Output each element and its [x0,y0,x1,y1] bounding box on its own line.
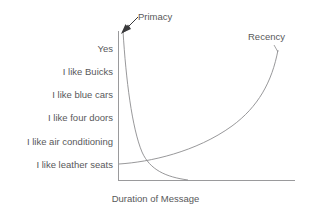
x-axis-title: Duration of Message [0,193,311,204]
y-tick-label-blue-cars: I like blue cars [52,89,113,100]
recency-leader-line [274,45,278,52]
primacy-arrow [121,17,138,34]
y-tick-label-four-doors: I like four doors [48,112,113,123]
recency-annotation-label: Recency [248,31,285,42]
y-tick-label-air-conditioning: I like air conditioning [27,136,113,147]
y-tick-label-yes: Yes [98,43,114,54]
primacy-annotation-label: Primacy [138,11,172,22]
y-tick-label-buicks: I like Buicks [63,66,113,77]
primacy-curve [123,31,188,180]
recency-curve [119,50,278,164]
primacy-recency-chart: Yes I like Buicks I like blue cars I lik… [0,0,311,216]
y-tick-label-leather-seats: I like leather seats [36,159,113,170]
